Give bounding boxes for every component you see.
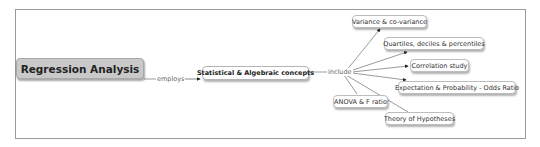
concept-node-statistical-algebraic[interactable]: Statistical & Algebraic concepts	[202, 66, 309, 80]
child-node-anova[interactable]: ANOVA & F ratio	[333, 95, 388, 108]
child-node-label: Expectation & Probability - Odds Ratio	[395, 84, 519, 92]
child-node-correlation[interactable]: Correlation study	[410, 59, 469, 72]
child-node-label: Quartiles, deciles & percentiles	[383, 40, 484, 48]
concept-node-label: Statistical & Algebraic concepts	[197, 69, 314, 77]
link-label-include: include	[327, 68, 353, 76]
child-node-label: Theory of Hypotheses	[384, 115, 455, 123]
child-node-hypotheses[interactable]: Theory of Hypotheses	[385, 112, 454, 125]
child-node-quartiles[interactable]: Quartiles, deciles & percentiles	[384, 37, 484, 50]
child-node-label: Variance & co-variance	[352, 18, 427, 26]
link-label-employs: employs	[156, 75, 185, 83]
child-node-label: ANOVA & F ratio	[334, 98, 387, 106]
child-node-variance[interactable]: Variance & co-variance	[352, 15, 427, 28]
child-node-label: Correlation study	[412, 62, 468, 70]
child-node-expectation-probability[interactable]: Expectation & Probability - Odds Ratio	[398, 81, 516, 94]
root-node-regression-analysis[interactable]: Regression Analysis	[16, 58, 144, 79]
root-node-label: Regression Analysis	[21, 63, 140, 75]
